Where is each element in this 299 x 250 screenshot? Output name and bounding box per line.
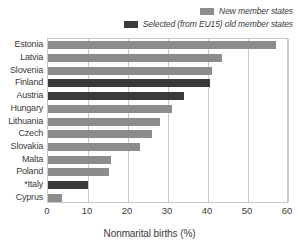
x-axis-ticks: 0102030405060: [47, 203, 288, 219]
bar-estonia: [48, 41, 276, 49]
y-axis-label-slovenia: Slovenia: [10, 65, 43, 75]
gridline-30: [168, 39, 169, 202]
y-axis-label-hungary: Hungary: [10, 103, 43, 113]
bar-malta: [48, 156, 111, 164]
x-tick-label-10: 10: [82, 205, 93, 216]
bar-slovenia: [48, 67, 212, 75]
y-axis-label-estonia: Estonia: [14, 39, 43, 49]
legend-swatch-old-member-states: [124, 21, 138, 28]
legend-item-old-member-states: Selected (from EU15) old member states: [124, 19, 293, 29]
legend-label-old-member-states: Selected (from EU15) old member states: [143, 19, 293, 29]
bar-poland: [48, 168, 109, 176]
y-axis-label-austria: Austria: [16, 90, 43, 100]
y-axis-label-slovakia: Slovakia: [11, 141, 43, 151]
x-tick-label-20: 20: [122, 205, 133, 216]
y-axis-label-czech: Czech: [18, 128, 43, 138]
bar-slovakia: [48, 143, 140, 151]
bar-lithuania: [48, 118, 160, 126]
bar-italy: [48, 181, 88, 189]
legend-label-new-member-states: New member states: [219, 6, 293, 16]
x-tick-label-60: 60: [282, 205, 293, 216]
chart-legend: New member states Selected (from EU15) o…: [0, 6, 299, 34]
x-axis-title: Nonmarital births (%): [0, 228, 299, 239]
bar-austria: [48, 92, 184, 100]
bar-latvia: [48, 54, 222, 62]
plot-wrapper: EstoniaLatviaSloveniaFinlandAustriaHunga…: [0, 38, 299, 203]
plot-area: [47, 38, 288, 203]
y-axis-label-malta: Malta: [22, 154, 43, 164]
x-tick-label-40: 40: [202, 205, 213, 216]
y-axis-label-cyprus: Cyprus: [16, 192, 43, 202]
bar-cyprus: [48, 194, 62, 202]
y-axis-category-labels: EstoniaLatviaSloveniaFinlandAustriaHunga…: [0, 38, 46, 203]
x-tick-label-0: 0: [44, 205, 49, 216]
y-axis-label-poland: Poland: [16, 166, 43, 176]
legend-item-new-member-states: New member states: [200, 6, 293, 16]
gridline-50: [248, 39, 249, 202]
y-axis-label-lithuania: Lithuania: [8, 116, 43, 126]
legend-swatch-new-member-states: [200, 8, 214, 15]
gridline-60: [288, 39, 289, 202]
x-tick-label-50: 50: [242, 205, 253, 216]
bar-hungary: [48, 105, 172, 113]
bar-finland: [48, 79, 210, 87]
gridline-40: [208, 39, 209, 202]
y-axis-label-italy: *Italy: [24, 179, 43, 189]
y-axis-label-latvia: Latvia: [20, 52, 43, 62]
y-axis-label-finland: Finland: [15, 77, 43, 87]
x-tick-label-30: 30: [162, 205, 173, 216]
nonmarital-births-bar-chart: New member states Selected (from EU15) o…: [0, 0, 299, 250]
bar-czech: [48, 130, 152, 138]
